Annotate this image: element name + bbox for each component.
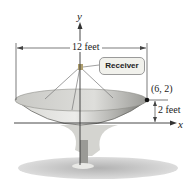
receiver-callout: Receiver bbox=[99, 57, 145, 75]
y-axis-label: y bbox=[77, 10, 82, 22]
height-arrow-up-icon bbox=[153, 101, 157, 106]
ground-shadow bbox=[18, 157, 178, 179]
width-arrow-left-icon bbox=[17, 46, 23, 50]
figure-graphics bbox=[0, 0, 192, 189]
point-label: (6, 2) bbox=[151, 83, 173, 94]
x-axis-arrow-icon bbox=[170, 121, 177, 126]
stand-cone bbox=[60, 125, 118, 156]
width-dimension-label: 12 feet bbox=[70, 41, 102, 52]
height-dimension-label: 2 feet bbox=[158, 104, 181, 115]
width-arrow-right-icon bbox=[140, 46, 146, 50]
height-arrow-down-icon bbox=[153, 117, 157, 122]
dish-rim bbox=[15, 89, 147, 111]
receiver-unit bbox=[78, 64, 83, 70]
y-axis-arrow-icon bbox=[78, 22, 83, 29]
stand-base bbox=[72, 163, 94, 169]
point-marker bbox=[145, 98, 150, 103]
receiver-callout-leader bbox=[83, 65, 99, 67]
parabolic-dish-figure: y x 12 feet (6, 2) 2 feet Receiver bbox=[0, 0, 192, 189]
x-axis-label: x bbox=[178, 118, 183, 130]
